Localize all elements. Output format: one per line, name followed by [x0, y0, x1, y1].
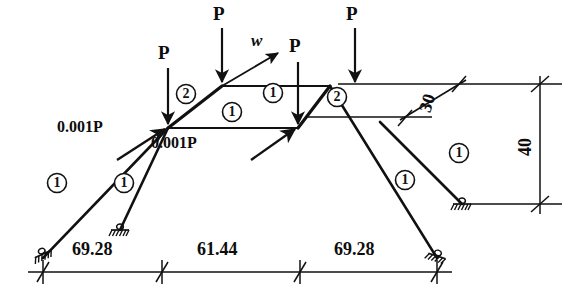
member-tag-3: 2	[176, 84, 196, 104]
support-inner-left-glyph	[109, 224, 129, 236]
load-label-P-right: P	[346, 4, 358, 23]
load-label-P-mid-left: P	[213, 4, 225, 23]
member-web-right-2	[298, 86, 330, 128]
load-label-w: w	[251, 32, 262, 49]
support-far-left-glyph	[31, 245, 54, 264]
support-far-right-glyph	[425, 247, 448, 264]
support-inner-right-glyph	[451, 198, 471, 210]
member-leg-inner-right	[380, 122, 462, 204]
load-arrow-w	[222, 53, 278, 86]
dimension-label-center-span: 61.44	[197, 240, 238, 258]
member-tag-4: 1	[222, 102, 242, 122]
dimension-label-right-span: 69.28	[334, 240, 375, 258]
load-label-imperfection-right: 0.001P	[151, 135, 197, 151]
dimension-label-40: 40	[516, 138, 534, 156]
member-tag-1: 1	[47, 173, 67, 193]
dimension-tick	[398, 110, 412, 126]
member-leg-far-right	[330, 86, 437, 258]
member-tag-6: 2	[327, 87, 347, 107]
member-tag-2: 1	[114, 173, 134, 193]
dimension-label-left-span: 69.28	[72, 240, 113, 258]
truss-diagram-figure: P P P P w 0.001P 0.001P 1 1 2 1 1 2 1 1 …	[0, 0, 568, 302]
load-label-P-mid-right: P	[289, 36, 301, 55]
load-arrow-imperfection-right	[251, 129, 295, 160]
member-tag-5: 1	[263, 83, 283, 103]
member-tag-8: 1	[449, 143, 469, 163]
member-tag-7: 1	[395, 170, 415, 190]
load-label-imperfection-left: 0.001P	[57, 119, 103, 135]
inclined-loads	[117, 53, 295, 160]
load-label-P-left: P	[158, 43, 170, 62]
